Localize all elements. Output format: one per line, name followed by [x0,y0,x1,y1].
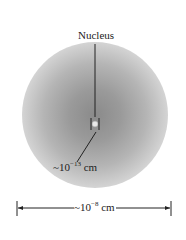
arrowhead-right [165,206,170,210]
arrowhead-left [18,206,23,210]
nucleus-size-exponent: −13 [70,160,81,168]
nucleus-size-label: ~10−13 cm [53,161,97,173]
nucleus-dot [92,121,98,127]
nucleus-size-leader-line [77,132,96,162]
atom-size-label: ~10−8 cm [74,201,115,213]
nucleus-size-prefix: ~10 [53,161,70,173]
nucleus-label: Nucleus [78,29,114,41]
nucleus-size-unit: cm [81,161,97,173]
atom-size-prefix: ~10 [74,201,91,213]
atom-size-unit: cm [98,201,114,213]
